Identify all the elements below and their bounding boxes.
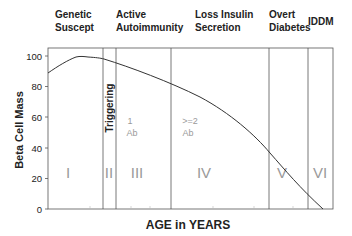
y-tick-80: 80 <box>31 81 42 92</box>
header-genetic-line1: Genetic <box>55 9 92 20</box>
header-loss-insulin-line1: Loss Insulin <box>195 9 253 20</box>
header-genetic-line2: Suscept <box>55 22 95 33</box>
y-tick-0: 0 <box>37 204 42 215</box>
header-iddm: IDDM <box>308 16 334 27</box>
triggering-label: Triggering <box>104 84 115 133</box>
annotation-1-ab-line2: Ab <box>126 128 137 138</box>
stage-headers: Genetic Suscept Active Autoimmunity Loss… <box>55 9 334 33</box>
annotation-2-ab-line2: Ab <box>182 128 193 138</box>
y-tick-100: 100 <box>26 51 42 62</box>
stage-I: I <box>66 164 70 181</box>
header-overt-diabetes-line1: Overt <box>269 9 296 20</box>
header-overt-diabetes-line2: Diabetes <box>269 22 311 33</box>
stage-VI: VI <box>313 164 327 181</box>
annotation-2-ab-line1: >=2 <box>182 116 198 126</box>
y-axis <box>45 56 48 209</box>
y-tick-60: 60 <box>31 112 42 123</box>
header-loss-insulin-line2: Secretion <box>195 22 241 33</box>
stage-IV: IV <box>197 164 211 181</box>
y-tick-40: 40 <box>31 143 42 154</box>
annotation-1-ab-line1: 1 <box>127 116 132 126</box>
header-autoimmunity-line2: Autoimmunity <box>116 22 184 33</box>
header-autoimmunity-line1: Active <box>116 9 146 20</box>
chart: Genetic Suscept Active Autoimmunity Loss… <box>0 0 352 236</box>
y-tick-labels: 100 80 60 40 20 0 <box>26 51 42 215</box>
y-tick-20: 20 <box>31 173 42 184</box>
y-axis-title: Beta Cell Mass <box>13 91 25 169</box>
x-axis-title: AGE in YEARS <box>146 218 230 232</box>
x-axis-ticks <box>90 206 293 209</box>
stage-III: III <box>131 164 144 181</box>
stage-II: II <box>105 164 113 181</box>
